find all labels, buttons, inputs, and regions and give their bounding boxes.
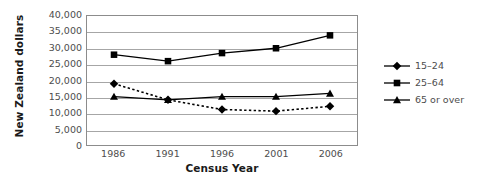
y-axis-tick-label: 35,000 — [28, 26, 82, 36]
y-axis-tick-labels: 40,00035,00030,00025,00020,00015,00010,0… — [28, 9, 82, 151]
diamond-marker-icon — [384, 60, 410, 72]
series-2 — [111, 32, 334, 64]
y-axis-tick-label: 25,000 — [28, 59, 82, 69]
x-axis-tick-label: 2006 — [306, 148, 356, 160]
x-axis-tick-label: 1996 — [197, 148, 247, 160]
legend-label: 15–24 — [410, 60, 444, 72]
data-point-marker — [165, 58, 172, 64]
triangle-marker-icon — [384, 94, 410, 106]
series-line — [114, 35, 330, 61]
legend-label: 65 or over — [410, 94, 464, 106]
y-axis-title: New Zealand dollars — [8, 6, 30, 146]
legend: 15–2425–6465 or over — [384, 57, 483, 108]
square-marker-icon — [384, 77, 410, 89]
x-axis-tick-label: 1986 — [88, 148, 138, 160]
data-point-marker — [110, 79, 119, 87]
data-point-marker — [273, 45, 280, 51]
y-axis-tick-label: 15,000 — [28, 92, 82, 102]
data-point-marker — [111, 51, 118, 57]
data-point-marker — [218, 105, 227, 113]
series-3 — [110, 90, 334, 104]
x-axis-tick-label: 2001 — [251, 148, 301, 160]
y-axis-tick-label: 20,000 — [28, 76, 82, 86]
plot-area — [86, 15, 358, 146]
series-layer — [87, 16, 357, 145]
data-point-marker — [326, 102, 335, 110]
y-axis-tick-label: 0 — [28, 141, 82, 151]
x-axis-tick-labels: 19861991199620012006 — [86, 148, 358, 162]
y-axis-tick-label: 40,000 — [28, 10, 82, 20]
data-point-marker — [219, 50, 226, 56]
legend-item[interactable]: 65 or over — [384, 91, 483, 108]
y-axis-tick-label: 5,000 — [28, 125, 82, 135]
legend-item[interactable]: 25–64 — [384, 74, 483, 91]
data-point-marker — [272, 107, 281, 115]
legend-label: 25–64 — [410, 77, 444, 89]
y-axis-tick-label: 10,000 — [28, 108, 82, 118]
x-axis-tick-label: 1991 — [143, 148, 193, 160]
legend-item[interactable]: 15–24 — [384, 57, 483, 74]
x-axis-title: Census Year — [86, 162, 358, 174]
data-point-marker — [327, 32, 334, 38]
y-axis-tick-label: 30,000 — [28, 43, 82, 53]
line-chart: New Zealand dollars 40,00035,00030,00025… — [0, 0, 483, 184]
